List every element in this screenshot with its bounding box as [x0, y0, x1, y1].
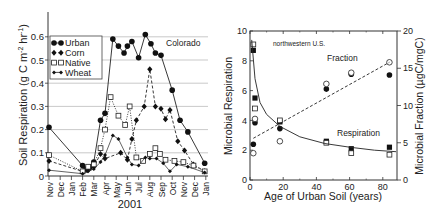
data-point: [136, 55, 142, 61]
left-x-ticks: NovDecJanFebMarAprMayJunJulAugSepOctNovD…: [45, 176, 212, 198]
data-point: [46, 124, 52, 130]
data-point: [172, 159, 177, 164]
data-point: [324, 81, 330, 87]
series-fraction-fit: [253, 62, 389, 138]
northwestern-annotation: northwestern U.S.: [273, 40, 325, 47]
left-x-tick-label: Feb: [78, 182, 88, 197]
right-y2-tick-label: 15: [403, 63, 413, 73]
right-y-tick-label: 10: [237, 26, 247, 36]
right-y-tick-label: 0: [242, 175, 247, 185]
legend-marker: [52, 60, 57, 65]
data-point: [251, 48, 256, 53]
data-point: [103, 153, 107, 157]
colorado-annotation: Colorado: [166, 38, 201, 48]
data-point: [127, 104, 132, 109]
right-y-tick-label: 6: [242, 86, 247, 96]
right-y2-tick-label: 20: [403, 26, 413, 36]
data-point: [167, 107, 172, 113]
left-chart: 00.10.20.30.40.50.6 NovDecJanFebMarAprMa…: [17, 12, 211, 210]
right-y2-axis-label: Microbial Fraction (µgC/mgC): [413, 37, 425, 174]
data-point: [91, 162, 96, 167]
right-y-tick-label: 8: [242, 56, 247, 66]
left-x-tick-label: Jan: [201, 182, 211, 196]
data-point: [47, 153, 52, 158]
data-point: [253, 106, 258, 111]
left-x-tick-label: Dec: [190, 181, 200, 197]
respiration-label: Respiration: [337, 128, 380, 138]
data-point: [134, 155, 139, 160]
left-y-tick-label: 0.5: [31, 55, 44, 66]
data-point: [181, 160, 186, 165]
left-y-ticks: 00.10.20.30.40.50.6: [31, 31, 48, 181]
data-point: [121, 50, 127, 56]
data-point: [155, 157, 159, 161]
data-point: [157, 152, 162, 157]
right-y-tick-label: 2: [242, 145, 247, 155]
left-y-tick-label: 0.4: [31, 78, 44, 89]
data-point: [143, 32, 149, 38]
data-point: [130, 162, 134, 166]
data-point: [116, 43, 122, 49]
data-point: [349, 151, 354, 156]
right-series: [251, 40, 397, 157]
data-point: [163, 157, 168, 162]
left-x-tick-label: Sep: [157, 182, 167, 197]
left-y-tick-label: 0.2: [31, 124, 44, 135]
data-point: [169, 87, 175, 93]
data-point: [148, 157, 152, 161]
right-y2-tick-label: 5: [403, 138, 408, 148]
left-x-tick-label: Mar: [89, 182, 99, 197]
left-x-tick-label: Dec: [56, 181, 66, 197]
data-point: [153, 103, 158, 109]
legend-marker: [59, 60, 64, 65]
data-point: [147, 66, 152, 72]
data-point: [387, 72, 393, 78]
data-point: [158, 53, 164, 59]
data-point: [108, 95, 113, 100]
series-respiration-open-squares: [251, 42, 392, 157]
data-point: [324, 86, 330, 92]
left-x-tick-label: Nov: [179, 181, 189, 197]
right-y2-tick-label: 10: [403, 101, 413, 111]
left-y-tick-label: 0.6: [31, 31, 44, 42]
right-y-axis-label: Microbial Respiration: [222, 57, 234, 155]
data-point: [110, 36, 116, 42]
legend-label: Native: [65, 58, 91, 68]
left-x-tick-label: Jun: [123, 182, 133, 196]
data-point: [116, 137, 120, 141]
data-point: [86, 164, 91, 169]
data-point: [103, 127, 108, 132]
data-point: [98, 146, 103, 151]
left-y-tick-label: 0.3: [31, 101, 44, 112]
data-point: [125, 43, 131, 49]
data-point: [163, 116, 168, 122]
left-x-tick-label: Aug: [145, 182, 155, 197]
data-point: [387, 145, 392, 150]
data-point: [142, 103, 147, 109]
data-point: [153, 50, 159, 56]
left-x-tick-label: Oct: [168, 181, 178, 195]
data-point: [185, 129, 191, 135]
data-point: [387, 152, 392, 157]
legend-marker: [58, 40, 64, 46]
data-point: [177, 118, 183, 124]
data-point: [111, 133, 115, 137]
series-fraction-open-circles: [251, 59, 393, 155]
right-x-axis-label: Age of Urban Soil (years): [264, 190, 382, 202]
data-point: [134, 117, 139, 123]
data-point: [252, 116, 258, 122]
data-point: [202, 160, 208, 166]
right-chart: 020406080024681005101520 northwestern U.…: [222, 26, 425, 202]
data-point: [123, 123, 128, 128]
left-x-tick-label: Jul: [134, 182, 144, 193]
data-point: [147, 152, 152, 157]
data-point: [102, 111, 108, 117]
data-point: [129, 136, 134, 142]
left-y-tick-label: 0: [39, 171, 44, 182]
data-point: [129, 39, 135, 45]
data-point: [116, 113, 121, 118]
left-y-axis-label: Soil Respiration (g C m-2 hr-1): [17, 24, 29, 166]
data-point: [191, 163, 196, 168]
left-x-tick-label: Jan: [67, 182, 77, 196]
data-point: [98, 118, 104, 124]
